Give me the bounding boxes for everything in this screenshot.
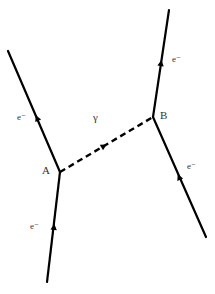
vertex-label-b: B	[160, 109, 167, 121]
outgoing-electron-A	[8, 51, 60, 172]
photon-label: γ	[92, 111, 98, 123]
electron-label: e⁻	[172, 54, 181, 64]
fermion-line	[8, 51, 60, 172]
photon-arrow-icon	[100, 144, 107, 150]
electron-label: e⁻	[187, 161, 196, 171]
electron-label: e⁻	[17, 112, 26, 122]
photon-line	[60, 117, 153, 172]
electron-label: e⁻	[30, 221, 39, 231]
outgoing-electron-B	[153, 10, 169, 117]
feynman-diagram: e⁻e⁻e⁻e⁻γAB	[0, 0, 215, 294]
incoming-electron-A	[47, 172, 60, 282]
incoming-electron-B	[153, 117, 206, 237]
vertex-label-a: A	[42, 164, 50, 176]
